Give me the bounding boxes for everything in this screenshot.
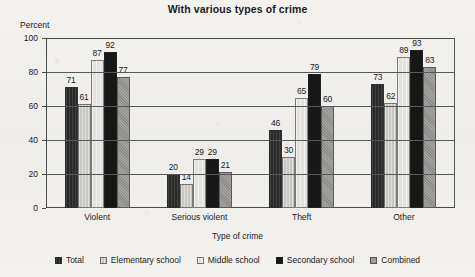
legend-swatch-icon: [55, 257, 62, 264]
gridline: [46, 140, 455, 141]
x-tick-label-other: Other: [393, 212, 414, 222]
y-tick-label: 60: [12, 101, 38, 111]
bar-value-label: 20: [169, 162, 178, 172]
bar-value-label: 60: [323, 94, 332, 104]
y-tick-label: 40: [12, 135, 38, 145]
bar-serious-violent-elementary-school: [180, 184, 193, 208]
bar-value-label: 71: [66, 75, 75, 85]
bar-value-label: 87: [92, 48, 101, 58]
bar-other-secondary-school: [410, 50, 423, 208]
bar-violent-middle-school: [91, 60, 104, 208]
y-tick-mark: [42, 208, 46, 209]
bar-theft-middle-school: [295, 98, 308, 209]
bars-layer: 7161879277201429292146306579607362899383: [46, 38, 455, 208]
x-tick-label-theft: Theft: [292, 212, 311, 222]
legend-swatch-icon: [100, 257, 107, 264]
bar-value-label: 29: [208, 147, 217, 157]
chart-legend: TotalElementary schoolMiddle schoolSecon…: [0, 255, 475, 265]
plot-area: 7161879277201429292146306579607362899383…: [46, 38, 455, 208]
legend-item-secondary-school[interactable]: Secondary school: [276, 255, 355, 265]
bar-other-combined: [423, 67, 436, 208]
y-tick-label: 80: [12, 67, 38, 77]
bar-value-label: 79: [310, 62, 319, 72]
legend-swatch-icon: [370, 257, 377, 264]
legend-item-total[interactable]: Total: [55, 255, 84, 265]
bar-value-label: 93: [412, 38, 421, 48]
bar-violent-elementary-school: [78, 104, 91, 208]
bar-violent-combined: [117, 77, 130, 208]
bar-other-elementary-school: [384, 103, 397, 208]
legend-label: Combined: [381, 255, 420, 265]
bar-serious-violent-secondary-school: [206, 159, 219, 208]
y-tick-mark: [42, 174, 46, 175]
legend-label: Secondary school: [287, 255, 355, 265]
legend-item-combined[interactable]: Combined: [370, 255, 420, 265]
bar-value-label: 65: [297, 86, 306, 96]
legend-label: Total: [66, 255, 84, 265]
y-tick-mark: [42, 72, 46, 73]
y-tick-label: 100: [12, 33, 38, 43]
x-tick-label-serious-violent: Serious violent: [171, 212, 227, 222]
bar-theft-combined: [321, 106, 334, 208]
legend-label: Middle school: [208, 255, 260, 265]
legend-item-elementary-school[interactable]: Elementary school: [100, 255, 181, 265]
bar-value-label: 29: [195, 147, 204, 157]
y-tick-mark: [42, 106, 46, 107]
bar-violent-secondary-school: [104, 52, 117, 208]
gridline: [46, 174, 455, 175]
x-tick-label-violent: Violent: [84, 212, 110, 222]
legend-swatch-icon: [197, 257, 204, 264]
bar-serious-violent-total: [167, 174, 180, 208]
bar-serious-violent-middle-school: [193, 159, 206, 208]
legend-item-middle-school[interactable]: Middle school: [197, 255, 260, 265]
bar-value-label: 21: [221, 160, 230, 170]
bar-value-label: 83: [425, 55, 434, 65]
x-axis-label: Type of crime: [0, 231, 475, 241]
y-tick-mark: [42, 140, 46, 141]
bar-serious-violent-combined: [219, 172, 232, 208]
y-axis-label: Percent: [20, 20, 49, 30]
chart-title: With various types of crime: [0, 3, 475, 15]
bar-other-total: [371, 84, 384, 208]
bar-value-label: 46: [271, 118, 280, 128]
bar-theft-elementary-school: [282, 157, 295, 208]
legend-label: Elementary school: [111, 255, 181, 265]
bar-other-middle-school: [397, 57, 410, 208]
bar-value-label: 89: [399, 45, 408, 55]
bar-value-label: 61: [79, 92, 88, 102]
bar-theft-total: [269, 130, 282, 208]
gridline: [46, 106, 455, 107]
bar-value-label: 62: [386, 91, 395, 101]
bar-value-label: 92: [105, 40, 114, 50]
gridline: [46, 72, 455, 73]
y-tick-mark: [42, 38, 46, 39]
bar-value-label: 30: [284, 145, 293, 155]
y-tick-label: 0: [12, 203, 38, 213]
bar-value-label: 77: [118, 65, 127, 75]
bar-value-label: 73: [373, 72, 382, 82]
y-tick-label: 20: [12, 169, 38, 179]
legend-swatch-icon: [276, 257, 283, 264]
